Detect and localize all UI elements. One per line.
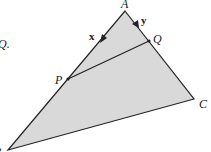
label-c: C — [199, 97, 208, 111]
label-b: B — [0, 145, 2, 152]
point-p — [66, 77, 69, 80]
label-p: P — [54, 73, 63, 87]
label-q: Q — [153, 32, 162, 46]
point-q — [147, 39, 150, 42]
label-vector-y: y — [141, 14, 147, 26]
label-a: A — [120, 0, 129, 11]
triangle-diagram: A Q P C B x y Q. — [0, 0, 211, 152]
triangle-abc — [8, 11, 194, 150]
partial-text: Q. — [0, 37, 10, 51]
label-vector-x: x — [89, 30, 95, 42]
